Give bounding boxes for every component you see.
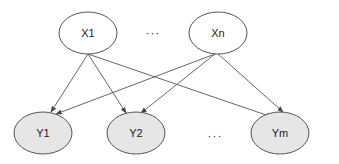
edge-x1-y1 bbox=[51, 54, 88, 112]
node-y2-label: Y2 bbox=[129, 127, 142, 139]
node-xn: Xn bbox=[189, 12, 247, 54]
bipartite-graph-diagram: X1 ··· Xn Y1 Y2 ··· Ym bbox=[0, 0, 339, 164]
edge-x1-ym bbox=[88, 54, 272, 117]
edge-xn-y1 bbox=[56, 54, 215, 114]
node-y1-label: Y1 bbox=[36, 127, 49, 139]
edges bbox=[51, 54, 283, 117]
node-ym-label: Ym bbox=[272, 127, 289, 139]
edge-xn-y2 bbox=[141, 54, 215, 113]
edge-x1-y2 bbox=[88, 54, 126, 113]
node-x1: X1 bbox=[59, 12, 117, 54]
node-y1: Y1 bbox=[14, 112, 72, 154]
bottom-ellipsis: ··· bbox=[208, 129, 223, 143]
node-y2: Y2 bbox=[107, 112, 165, 154]
node-ym: Ym bbox=[251, 112, 309, 154]
node-xn-label: Xn bbox=[211, 27, 224, 39]
top-ellipsis: ··· bbox=[146, 26, 161, 40]
edge-xn-ym bbox=[218, 54, 283, 112]
node-x1-label: X1 bbox=[81, 27, 94, 39]
